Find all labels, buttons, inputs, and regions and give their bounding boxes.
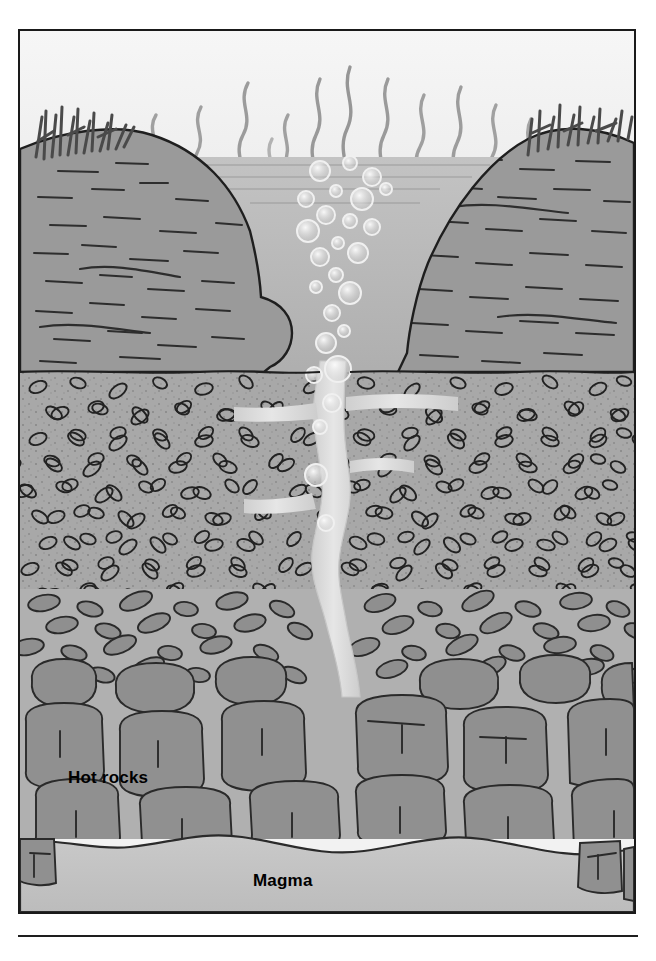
caption-rule: [18, 935, 638, 937]
figure-stage: Hot rocks Magma: [0, 0, 656, 961]
magma-label: Magma: [253, 871, 313, 891]
hot-rocks-label: Hot rocks: [68, 768, 148, 788]
illustration-frame: Hot rocks Magma: [18, 29, 636, 914]
magma-region: [20, 835, 634, 912]
